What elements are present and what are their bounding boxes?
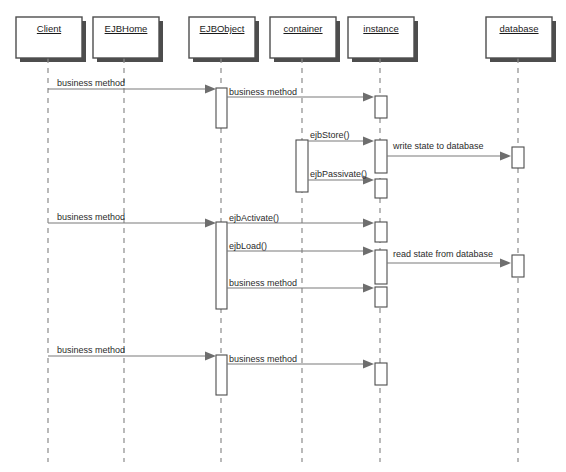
- activation-bar-act-instance-4[interactable]: [375, 222, 387, 242]
- participant-label-instance: instance: [363, 23, 398, 34]
- messages-group: [48, 84, 511, 368]
- message-label-m1: business method: [57, 78, 125, 88]
- diagram-svg: [0, 0, 566, 472]
- activation-bar-act-ejbobject-1[interactable]: [216, 88, 227, 128]
- message-label-m4: write state to database: [393, 141, 484, 151]
- message-label-m2: business method: [229, 87, 297, 97]
- participant-header-ejbhome[interactable]: EJBHome: [93, 23, 159, 34]
- participant-header-database[interactable]: database: [486, 23, 552, 34]
- participant-header-instance[interactable]: instance: [348, 23, 414, 34]
- activation-bar-act-instance-1[interactable]: [375, 96, 387, 118]
- activation-bar-act-database-1[interactable]: [512, 147, 524, 168]
- message-arrowhead-m2: [363, 92, 374, 101]
- message-arrowhead-m10: [363, 283, 374, 292]
- lifelines-group: [48, 58, 518, 462]
- participant-label-ejbobject: EJBObject: [200, 23, 245, 34]
- activation-bar-act-instance-3[interactable]: [375, 179, 387, 198]
- message-arrowhead-m6: [205, 218, 216, 227]
- activation-bar-act-instance-5[interactable]: [375, 250, 387, 284]
- message-label-m12: business method: [229, 354, 297, 364]
- sequence-diagram-canvas: ClientEJBHomeEJBObjectcontainerinstanced…: [0, 0, 566, 472]
- message-label-m3: ejbStore(): [310, 130, 350, 140]
- participant-header-client[interactable]: Client: [16, 23, 82, 34]
- activation-bar-act-ejbobject-3[interactable]: [216, 355, 227, 395]
- activation-bar-act-container-1[interactable]: [296, 140, 308, 192]
- activation-bar-act-instance-2[interactable]: [375, 140, 387, 173]
- message-arrowhead-m4: [500, 151, 511, 160]
- participant-label-container: container: [283, 23, 322, 34]
- participant-label-client: Client: [37, 23, 61, 34]
- message-label-m9: read state from database: [393, 249, 493, 259]
- participant-label-database: database: [499, 23, 538, 34]
- message-arrowhead-m9: [500, 258, 511, 267]
- participant-label-ejbhome: EJBHome: [105, 23, 148, 34]
- message-label-m11: business method: [57, 345, 125, 355]
- activation-bar-act-instance-6[interactable]: [375, 287, 387, 307]
- message-arrowhead-m8: [363, 246, 374, 255]
- message-label-m8: ejbLoad(): [229, 241, 267, 251]
- message-arrowhead-m11: [205, 351, 216, 360]
- activation-bar-act-ejbobject-2[interactable]: [216, 222, 227, 309]
- message-arrowhead-m3: [363, 136, 374, 145]
- message-arrowhead-m12: [363, 359, 374, 368]
- message-arrowhead-m7: [363, 218, 374, 227]
- message-label-m5: ejbPassivate(): [310, 169, 367, 179]
- message-label-m10: business method: [229, 278, 297, 288]
- participant-header-container[interactable]: container: [270, 23, 336, 34]
- activation-bar-act-instance-7[interactable]: [375, 363, 387, 385]
- message-label-m7: ejbActivate(): [229, 213, 279, 223]
- message-label-m6: business method: [57, 212, 125, 222]
- activation-bar-act-database-2[interactable]: [512, 255, 524, 277]
- participant-header-ejbobject[interactable]: EJBObject: [189, 23, 255, 34]
- message-arrowhead-m1: [205, 84, 216, 93]
